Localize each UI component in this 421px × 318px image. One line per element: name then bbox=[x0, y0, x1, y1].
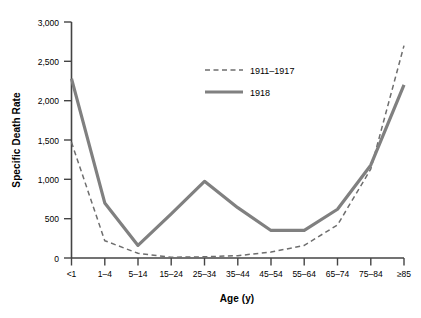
x-axis: <1 1–4 5–14 15–24 25–34 35–44 45–54 55–6… bbox=[67, 258, 412, 304]
chart-figure: 3,000 2,500 2,000 1,500 1,000 500 0 Spec… bbox=[0, 0, 421, 318]
x-tick-label: 75–84 bbox=[359, 269, 383, 279]
y-tick-labels: 3,000 2,500 2,000 1,500 1,000 500 0 bbox=[38, 18, 60, 264]
legend-label-1918: 1918 bbox=[250, 88, 270, 98]
x-tick-label: <1 bbox=[67, 269, 77, 279]
x-axis-title: Age (y) bbox=[220, 293, 255, 304]
y-tick-label: 0 bbox=[54, 254, 59, 264]
death-rate-line-chart: 3,000 2,500 2,000 1,500 1,000 500 0 Spec… bbox=[0, 0, 421, 318]
y-tick-label: 1,500 bbox=[38, 136, 60, 146]
x-tick-label: 65–74 bbox=[326, 269, 350, 279]
x-tick-labels: <1 1–4 5–14 15–24 25–34 35–44 45–54 55–6… bbox=[67, 269, 412, 279]
x-tick-label: 1–4 bbox=[98, 269, 112, 279]
y-axis-title: Specific Death Rate bbox=[11, 92, 22, 188]
y-tick-label: 2,500 bbox=[38, 57, 60, 67]
x-tick-label: 55–64 bbox=[292, 269, 316, 279]
x-axis-ticks bbox=[72, 258, 405, 266]
y-tick-label: 1,000 bbox=[38, 175, 60, 185]
x-tick-label: 45–54 bbox=[259, 269, 283, 279]
y-axis-ticks bbox=[64, 22, 72, 258]
x-tick-label: 5–14 bbox=[129, 269, 148, 279]
y-axis: 3,000 2,500 2,000 1,500 1,000 500 0 Spec… bbox=[11, 18, 72, 264]
y-tick-label: 2,000 bbox=[38, 96, 60, 106]
y-tick-label: 3,000 bbox=[38, 18, 60, 28]
chart-legend: 1911–1917 1918 bbox=[205, 66, 294, 98]
series-line-1918 bbox=[72, 79, 405, 246]
y-tick-label: 500 bbox=[45, 214, 59, 224]
x-tick-label: 35–44 bbox=[226, 269, 250, 279]
x-tick-label: 25–34 bbox=[193, 269, 217, 279]
x-tick-label: ≥85 bbox=[397, 269, 411, 279]
legend-label-1911-1917: 1911–1917 bbox=[250, 66, 294, 76]
x-tick-label: 15–24 bbox=[159, 269, 183, 279]
